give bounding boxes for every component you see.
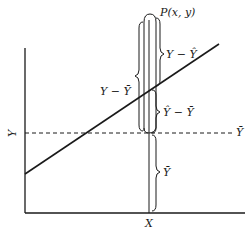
y-axis-label: Y bbox=[6, 128, 19, 137]
explained-label: Ŷ − Ȳ bbox=[163, 105, 195, 119]
total-deviation-label: Y − Ȳ bbox=[100, 85, 132, 98]
mean-line-label: Ȳ bbox=[236, 126, 245, 139]
mean-height-label: Ȳ bbox=[163, 166, 172, 179]
point-label: P(x, y) bbox=[159, 6, 195, 19]
regression-deviation-diagram: P(x, y) Y − Ŷ Y − Ȳ Ŷ − Ȳ Ȳ Ȳ X Y bbox=[0, 0, 252, 233]
total-deviation-brace bbox=[135, 22, 143, 131]
residual-label: Y − Ŷ bbox=[166, 47, 198, 61]
x-axis-label: X bbox=[144, 217, 154, 230]
residual-brace bbox=[156, 18, 164, 86]
total-deviation-bracket bbox=[144, 14, 156, 131]
mean-height-brace bbox=[152, 135, 160, 211]
